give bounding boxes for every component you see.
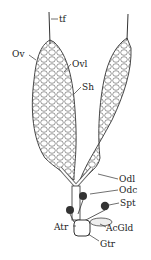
label-accessory-gland: AcGld	[106, 224, 133, 233]
reproductive-system-drawing	[0, 0, 151, 260]
spermatheca-3	[101, 202, 109, 210]
label-common-oviduct: Odc	[119, 186, 137, 195]
label-spermatheca: Spt	[120, 199, 136, 208]
label-lateral-oviduct: Odl	[119, 175, 135, 184]
genital-atrium	[74, 220, 90, 236]
spermatheca-2	[66, 206, 74, 214]
label-genital-tract: Gtr	[100, 240, 115, 249]
label-ovary: Ov	[12, 50, 24, 59]
ovary-left	[32, 40, 76, 180]
spermatheca-1	[79, 192, 87, 200]
common-oviduct	[72, 186, 80, 220]
label-sheath: Sh	[82, 83, 94, 92]
terminal-filament-left	[49, 12, 50, 44]
label-atrium: Atr	[54, 223, 68, 232]
label-ovariole: Ovl	[72, 60, 87, 69]
ovary-right	[80, 38, 131, 180]
label-terminal-filament: tf	[59, 15, 66, 24]
terminal-filament-right	[127, 14, 128, 40]
lateral-oviducts	[60, 168, 92, 186]
